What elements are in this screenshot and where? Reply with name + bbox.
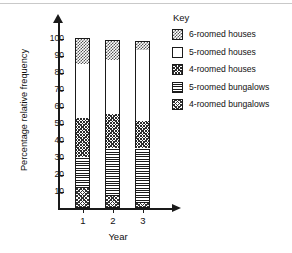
legend-item-4-roomed-bungalows: 4-roomed bungalows xyxy=(172,98,292,111)
bar-year-1 xyxy=(75,38,90,208)
x-tick-label-2: 2 xyxy=(103,215,123,226)
segment-6-roomed-houses xyxy=(135,41,150,50)
y-tick-mark xyxy=(58,107,64,108)
y-tick-mark xyxy=(58,90,64,91)
x-axis-arrowhead xyxy=(172,204,181,212)
legend-swatch-crosshatch-icon xyxy=(172,64,183,75)
segment-5-roomed-houses xyxy=(105,60,120,114)
segment-4-roomed-bungalows xyxy=(75,188,90,208)
bar-year-2 xyxy=(105,40,120,208)
segment-4-roomed-bungalows xyxy=(135,203,150,208)
segment-4-roomed-houses xyxy=(105,114,120,148)
segment-4-roomed-bungalows xyxy=(105,196,120,208)
legend-item-label: 5-roomed bungalows xyxy=(189,82,269,93)
y-tick-mark xyxy=(58,73,64,74)
bar-year-3 xyxy=(135,41,150,209)
x-tick-label-1: 1 xyxy=(73,215,93,226)
segment-4-roomed-houses xyxy=(135,121,150,148)
y-tick-mark xyxy=(58,124,64,125)
segment-5-roomed-bungalows xyxy=(135,149,150,203)
legend-item-label: 6-roomed houses xyxy=(189,29,256,40)
legend-swatch-white-icon xyxy=(172,47,183,58)
legend-item-label: 4-roomed houses xyxy=(189,64,256,75)
segment-5-roomed-houses xyxy=(135,50,150,121)
segment-5-roomed-bungalows xyxy=(75,157,90,188)
legend-item-5-roomed-bungalows: 5-roomed bungalows xyxy=(172,81,292,94)
segment-4-roomed-houses xyxy=(75,118,90,157)
bar-chart: Percentage relative frequency Year 100 9… xyxy=(0,0,292,253)
y-tick-mark xyxy=(58,39,64,40)
segment-6-roomed-houses xyxy=(75,38,90,64)
legend-item-label: 4-roomed bungalows xyxy=(189,99,269,110)
segment-5-roomed-bungalows xyxy=(105,148,120,196)
legend-swatch-diagonal-hatch-icon xyxy=(172,99,183,110)
legend-title: Key xyxy=(173,12,292,23)
legend: Key 6-roomed houses 5-roomed houses 4-ro… xyxy=(172,12,292,116)
legend-item-5-roomed-houses: 5-roomed houses xyxy=(172,46,292,59)
x-tick-label-3: 3 xyxy=(133,215,153,226)
legend-item-label: 5-roomed houses xyxy=(189,47,256,58)
x-axis-line xyxy=(58,208,174,210)
legend-swatch-checkerboard-icon xyxy=(172,29,183,40)
segment-6-roomed-houses xyxy=(105,40,120,60)
legend-item-4-roomed-houses: 4-roomed houses xyxy=(172,63,292,76)
x-tick-mark xyxy=(113,208,114,213)
x-tick-mark xyxy=(83,208,84,213)
x-axis-title: Year xyxy=(88,231,148,242)
page-edge-rule xyxy=(0,3,292,4)
segment-5-roomed-houses xyxy=(75,64,90,118)
y-tick-mark xyxy=(58,192,64,193)
y-tick-mark xyxy=(58,175,64,176)
legend-swatch-horizontal-lines-icon xyxy=(172,82,183,93)
y-tick-mark xyxy=(58,56,64,57)
y-tick-mark xyxy=(58,141,64,142)
x-tick-mark xyxy=(143,208,144,213)
y-tick-mark xyxy=(58,158,64,159)
legend-item-6-roomed-houses: 6-roomed houses xyxy=(172,28,292,41)
